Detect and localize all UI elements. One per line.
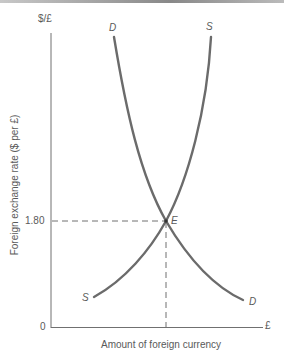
equilibrium-label: E bbox=[171, 215, 178, 226]
demand-label-bottom: D bbox=[249, 296, 256, 307]
equilibrium-point bbox=[164, 219, 168, 223]
y-axis-unit: $/£ bbox=[38, 13, 52, 24]
demand-curve bbox=[114, 37, 243, 300]
demand-label-top: D bbox=[109, 22, 116, 33]
x-axis-unit: £ bbox=[265, 320, 271, 331]
supply-label-bottom: S bbox=[82, 292, 89, 303]
supply-curve bbox=[94, 37, 211, 297]
x-axis-label: Amount of foreign currency bbox=[101, 339, 221, 350]
origin-label: 0 bbox=[40, 321, 46, 332]
rate-tick-label: 1.80 bbox=[25, 215, 44, 226]
supply-demand-chart bbox=[0, 0, 284, 355]
y-axis-label: Foreign exchange rate ($ per £) bbox=[9, 115, 20, 256]
supply-label-top: S bbox=[206, 21, 213, 32]
